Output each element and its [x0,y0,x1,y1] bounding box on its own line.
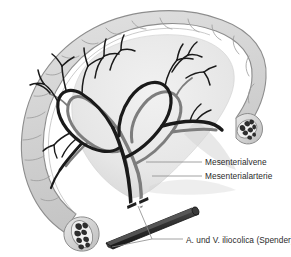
label-mesenterialvene: Mesenterialvene [205,157,267,167]
label-mesenterialarterie: Mesenterialarterie [205,171,273,181]
bowel-stump-upper-right [234,114,263,144]
medical-illustration-figure: Mesenterialvene Mesenterialarterie A. un… [0,0,291,257]
illustration-canvas: Mesenterialvene Mesenterialarterie A. un… [0,0,291,257]
bowel-stump-lower-left [64,217,99,251]
label-iliocolica: A. und V. iliocolica (Spender) [186,235,291,245]
